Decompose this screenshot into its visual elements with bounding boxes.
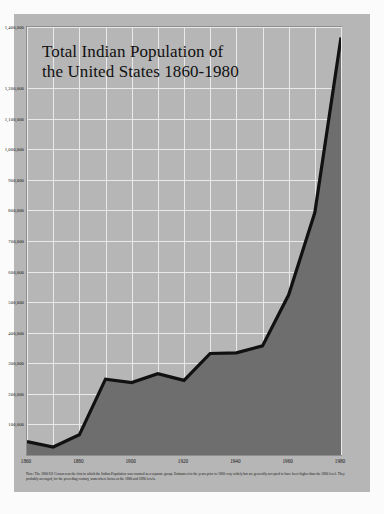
- y-axis-tick-label: 200,000: [8, 391, 24, 396]
- y-axis-tick-label: 100,000: [8, 422, 24, 427]
- chart-note: Note: The 1860 US Census was the first i…: [26, 472, 356, 481]
- population-area-series: [27, 27, 341, 455]
- x-axis-tick-label: 1900: [125, 458, 135, 464]
- x-axis-labels: 1860188019001920194019601980: [26, 458, 342, 472]
- x-axis-tick-label: 1920: [178, 458, 188, 464]
- y-axis-tick-label: 1,200,000: [5, 86, 24, 91]
- area-fill: [27, 37, 341, 455]
- y-axis-tick-label: 1,100,000: [5, 116, 24, 121]
- y-axis-tick-label: 500,000: [8, 300, 24, 305]
- chart-title-line-1: Total Indian Population of: [42, 42, 292, 62]
- chart-title-line-2: the United States 1860-1980: [42, 62, 292, 82]
- y-axis-labels: 100,000200,000300,000400,000500,000600,0…: [0, 26, 24, 456]
- y-axis-tick-label: 800,000: [8, 208, 24, 213]
- chart-page: 100,000200,000300,000400,000500,000600,0…: [0, 0, 384, 514]
- y-axis-tick-label: 400,000: [8, 330, 24, 335]
- x-axis-tick-label: 1880: [73, 458, 83, 464]
- x-axis-tick-label: 1980: [335, 458, 345, 464]
- plot-area: [26, 26, 342, 456]
- y-axis-tick-label: 900,000: [8, 177, 24, 182]
- x-axis-tick-label: 1960: [282, 458, 292, 464]
- y-axis-tick-label: 1,400,000: [5, 25, 24, 30]
- y-axis-tick-label: 1,000,000: [5, 147, 24, 152]
- y-axis-tick-label: 300,000: [8, 361, 24, 366]
- y-axis-tick-label: 700,000: [8, 239, 24, 244]
- gridline-vertical: [341, 27, 342, 455]
- chart-title: Total Indian Population of the United St…: [42, 42, 292, 82]
- y-axis-tick-label: 600,000: [8, 269, 24, 274]
- x-axis-tick-label: 1860: [21, 458, 31, 464]
- x-axis-tick-label: 1940: [230, 458, 240, 464]
